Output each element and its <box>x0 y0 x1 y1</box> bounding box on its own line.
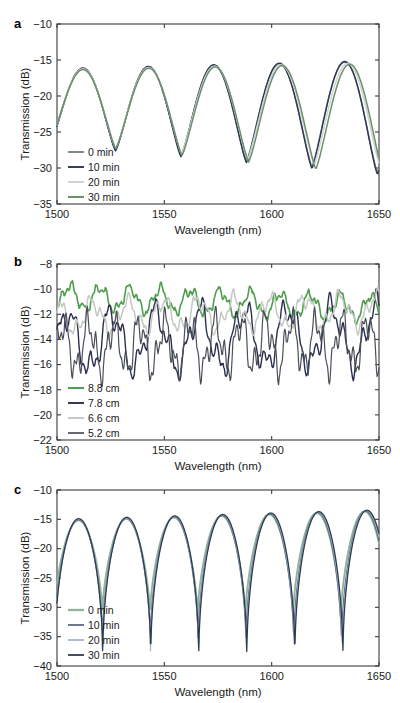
y-tick-label: −15 <box>33 513 52 525</box>
y-tick-label: −25 <box>33 126 52 138</box>
legend: 8.8 cm7.8 cm6.6 cm5.2 cm <box>68 382 120 439</box>
chart-panel-c: c 1500155016001650−40−35−30−25−20−15−10W… <box>0 470 400 703</box>
y-tick-label: −40 <box>33 660 52 672</box>
chart-svg-c: 1500155016001650−40−35−30−25−20−15−10Wav… <box>0 470 400 703</box>
y-tick-label: −22 <box>33 434 52 446</box>
y-tick-label: −8 <box>39 258 52 270</box>
legend-label: 0 min <box>88 146 114 158</box>
y-tick-label: −25 <box>33 572 52 584</box>
traces <box>57 281 379 387</box>
y-axis-label: Transmission (dB) <box>19 531 31 624</box>
y-tick-label: −10 <box>33 283 52 295</box>
panel-letter-b: b <box>14 254 22 269</box>
y-tick-label: −14 <box>33 333 52 345</box>
y-tick-label: −30 <box>33 162 52 174</box>
legend-label: 20 min <box>88 634 120 646</box>
legend-label: 5.2 cm <box>88 427 120 439</box>
y-tick-label: −20 <box>33 409 52 421</box>
y-tick-label: −35 <box>33 198 52 210</box>
legend: 0 min10 min20 min30 min <box>68 604 120 661</box>
chart-svg-a: 1500155016001650−35−30−25−20−15−10Wavele… <box>0 0 400 240</box>
chart-panel-b: b 1500155016001650−22−20−18−16−14−12−10−… <box>0 238 400 478</box>
x-tick-label: 1550 <box>152 444 176 456</box>
y-tick-label: −35 <box>33 630 52 642</box>
chart-panel-a: a 1500155016001650−35−30−25−20−15−10Wave… <box>0 0 400 240</box>
chart-svg-b: 1500155016001650−22−20−18−16−14−12−10−8W… <box>0 238 400 478</box>
y-tick-label: −15 <box>33 54 52 66</box>
legend-label: 7.8 cm <box>88 397 120 409</box>
y-tick-label: −16 <box>33 358 52 370</box>
y-tick-label: −12 <box>33 308 52 320</box>
x-axis-label: Wavelength (nm) <box>174 224 261 236</box>
y-tick-label: −10 <box>33 18 52 30</box>
legend-label: 20 min <box>88 176 120 188</box>
x-tick-label: 1550 <box>152 670 176 682</box>
y-tick-label: −18 <box>33 384 52 396</box>
legend-label: 6.6 cm <box>88 412 120 424</box>
panel-letter-a: a <box>14 16 21 31</box>
y-tick-label: −20 <box>33 90 52 102</box>
x-tick-label: 1550 <box>152 208 176 220</box>
legend-label: 8.8 cm <box>88 382 120 394</box>
y-tick-label: −20 <box>33 542 52 554</box>
x-tick-label: 1600 <box>259 208 283 220</box>
x-tick-label: 1650 <box>367 670 391 682</box>
legend-label: 10 min <box>88 619 120 631</box>
x-tick-label: 1600 <box>259 444 283 456</box>
x-tick-label: 1600 <box>259 670 283 682</box>
x-tick-label: 1650 <box>367 444 391 456</box>
legend-label: 30 min <box>88 649 120 661</box>
legend-label: 30 min <box>88 191 120 203</box>
panel-letter-c: c <box>14 482 21 497</box>
legend-label: 10 min <box>88 161 120 173</box>
y-tick-label: −30 <box>33 601 52 613</box>
legend-label: 0 min <box>88 604 114 616</box>
x-axis-label: Wavelength (nm) <box>174 686 261 698</box>
y-tick-label: −10 <box>33 484 52 496</box>
y-axis-label: Transmission (dB) <box>19 67 31 160</box>
legend: 0 min10 min20 min30 min <box>68 146 120 203</box>
x-tick-label: 1650 <box>367 208 391 220</box>
figure-panels: a 1500155016001650−35−30−25−20−15−10Wave… <box>0 0 400 703</box>
y-axis-label: Transmission (dB) <box>19 305 31 398</box>
